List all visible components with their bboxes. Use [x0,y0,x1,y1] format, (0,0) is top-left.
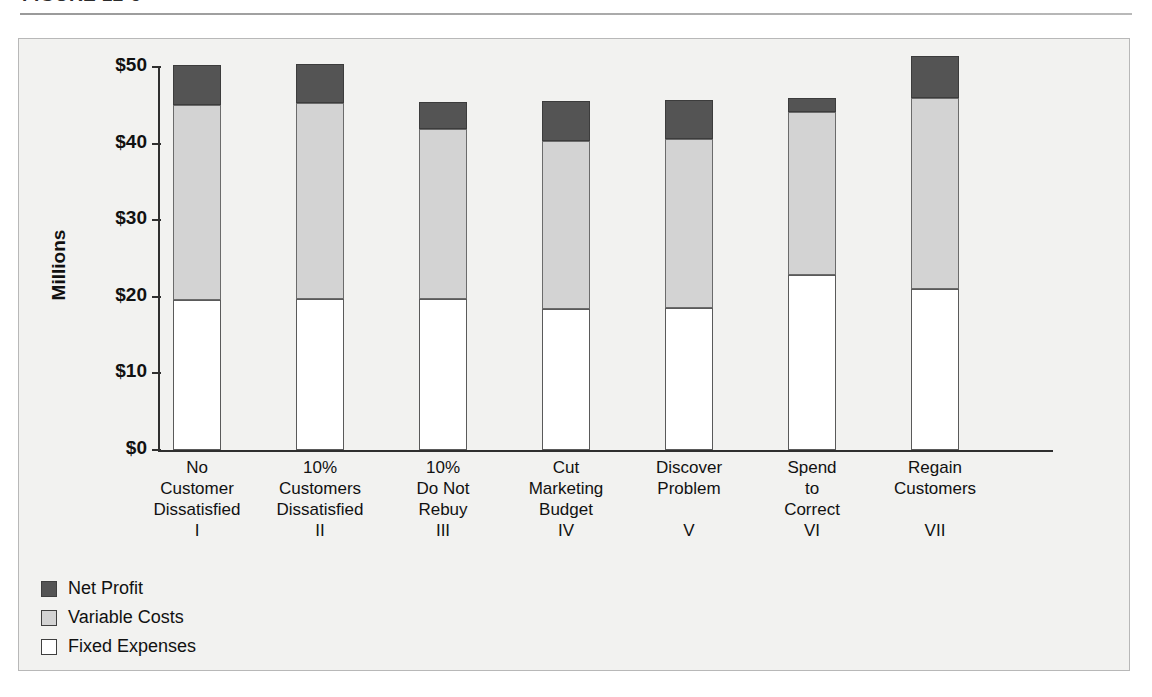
category-label-line: No [137,457,257,478]
bar-segment-net-profit[interactable] [419,102,467,129]
y-axis-tick [152,372,161,374]
y-axis-tick-label: $50 [85,54,147,76]
category-label-line: Marketing [506,478,626,499]
category-label-line: to [752,478,872,499]
bar-segment-variable-costs[interactable] [788,112,836,275]
category-label-line: Correct [752,499,872,520]
figure-title-strip: FIGURE 12-5 [0,0,1152,30]
bar-segment-variable-costs[interactable] [296,103,344,299]
y-axis-tick-label: $40 [85,131,147,153]
category-label-line: Spend [752,457,872,478]
category-label-line: 10% [260,457,380,478]
legend-swatch [41,581,57,597]
bar-segment-net-profit[interactable] [173,65,221,105]
category-label: SpendtoCorrectVI [752,457,872,541]
legend-label: Fixed Expenses [68,636,196,657]
category-label-line: Customers [260,478,380,499]
legend-swatch [41,610,57,626]
category-label-line: Dissatisfied [260,499,380,520]
y-axis-tick [152,219,161,221]
legend-item[interactable]: Variable Costs [41,603,196,632]
category-label-line: Customers [875,478,995,499]
category-label-line: Budget [506,499,626,520]
category-label: NoCustomerDissatisfiedI [137,457,257,541]
title-divider [20,13,1132,15]
bar-segment-fixed-expenses[interactable] [296,299,344,450]
chart-legend: Net ProfitVariable CostsFixed Expenses [41,574,196,661]
bar-segment-fixed-expenses[interactable] [542,309,590,450]
category-label: CutMarketingBudgetIV [506,457,626,541]
figure-title: FIGURE 12-5 [22,0,142,6]
legend-item[interactable]: Net Profit [41,574,196,603]
bar-segment-net-profit[interactable] [911,56,959,98]
bar-segment-variable-costs[interactable] [542,141,590,309]
bar-segment-variable-costs[interactable] [665,139,713,308]
bar-segment-fixed-expenses[interactable] [173,300,221,450]
category-label-line: Discover [629,457,749,478]
category-label-line: Rebuy [383,499,503,520]
category-label: RegainCustomers VII [875,457,995,541]
y-axis-tick-label: $20 [85,284,147,306]
y-axis-tick [152,296,161,298]
category-roman-numeral: VII [875,520,995,541]
bar-segment-variable-costs[interactable] [911,98,959,290]
bar-segment-net-profit[interactable] [296,64,344,103]
category-label: 10%CustomersDissatisfiedII [260,457,380,541]
bar-segment-fixed-expenses[interactable] [665,308,713,450]
bar-segment-variable-costs[interactable] [173,105,221,300]
y-axis-tick-label: $0 [85,437,147,459]
category-roman-numeral: II [260,520,380,541]
category-roman-numeral: III [383,520,503,541]
category-label-line: Customer [137,478,257,499]
y-axis-tick [152,449,161,451]
y-axis-line [158,67,160,451]
legend-label: Variable Costs [68,607,184,628]
category-label-line: Dissatisfied [137,499,257,520]
legend-label: Net Profit [68,578,143,599]
category-roman-numeral: V [629,520,749,541]
category-label-line: Do Not [383,478,503,499]
category-label: 10%Do NotRebuyIII [383,457,503,541]
category-label-line: Problem [629,478,749,499]
bar-segment-fixed-expenses[interactable] [419,299,467,450]
category-label-line: Regain [875,457,995,478]
y-axis-tick [152,143,161,145]
bar-segment-net-profit[interactable] [665,100,713,139]
y-axis-tick-label: $30 [85,207,147,229]
bar-segment-net-profit[interactable] [788,98,836,113]
category-label-line: Cut [506,457,626,478]
category-label-spacer [629,499,749,520]
category-roman-numeral: I [137,520,257,541]
bar-segment-fixed-expenses[interactable] [788,275,836,450]
y-axis-tick [152,66,161,68]
bar-segment-net-profit[interactable] [542,101,590,142]
category-label-line: 10% [383,457,503,478]
category-roman-numeral: IV [506,520,626,541]
bar-segment-fixed-expenses[interactable] [911,289,959,450]
category-label: DiscoverProblem V [629,457,749,541]
bar-segment-variable-costs[interactable] [419,129,467,299]
y-axis-tick-label: $10 [85,360,147,382]
category-label-spacer [875,499,995,520]
category-roman-numeral: VI [752,520,872,541]
chart-panel: Millions $0$10$20$30$40$50 NoCustomerDis… [18,38,1130,671]
legend-swatch [41,639,57,655]
x-axis-line [158,450,1053,452]
legend-item[interactable]: Fixed Expenses [41,632,196,661]
